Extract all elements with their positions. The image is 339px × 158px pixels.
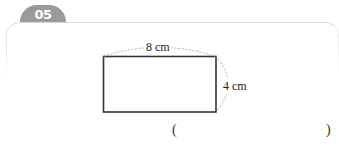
answer-close-paren: ) [326, 122, 331, 138]
height-label: 4 cm [223, 79, 247, 94]
answer-blank[interactable] [182, 122, 322, 140]
rectangle-shape [104, 57, 217, 113]
answer-open-paren: ( [172, 122, 177, 138]
width-label: 8 cm [144, 41, 172, 54]
